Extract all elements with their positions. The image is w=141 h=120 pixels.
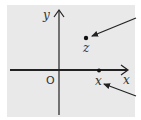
point-x-label: x xyxy=(95,74,102,88)
origin-label: O xyxy=(46,74,55,87)
x-axis-label: x xyxy=(123,73,130,87)
point-x xyxy=(97,69,101,73)
coordinate-diagram: y x O z x xyxy=(0,0,141,120)
plot-background xyxy=(7,5,135,117)
y-axis-label: y xyxy=(42,8,50,22)
point-z xyxy=(84,36,88,40)
point-z-label: z xyxy=(82,41,90,55)
